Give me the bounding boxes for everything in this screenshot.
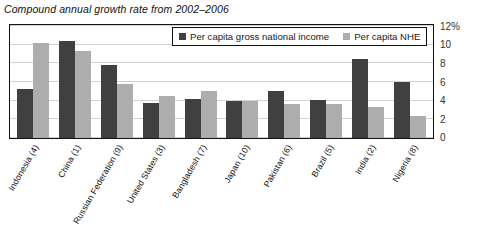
bar <box>185 99 201 138</box>
x-axis-tick-label: Pakistan (6) <box>261 143 293 189</box>
legend-item-nhe: Per capita NHE <box>343 31 420 42</box>
y-axis-tick-label: 4 <box>440 95 446 106</box>
y-axis-tick-label: 8 <box>440 57 446 68</box>
y-axis-tick-label: 6 <box>440 76 446 87</box>
x-axis-tick-label: Indonesia (4) <box>6 143 40 193</box>
bar <box>410 116 426 138</box>
x-axis-tick-label: Nigeria (8) <box>390 143 419 184</box>
bar-group <box>96 25 138 138</box>
y-axis: 12%1086420 <box>440 24 490 139</box>
bar <box>75 51 91 138</box>
x-axis-label-cell: Pakistan (6) <box>264 141 306 236</box>
x-axis-label-cell: Japan (10) <box>221 141 263 236</box>
x-axis-label-cell: India (2) <box>348 141 390 236</box>
bar <box>201 91 217 138</box>
bar <box>117 84 133 138</box>
bar-group <box>12 25 54 138</box>
y-axis-tick-label: 2 <box>440 113 446 124</box>
bar-group <box>54 25 96 138</box>
legend-label-nhe: Per capita NHE <box>354 31 420 42</box>
legend-item-gni: Per capita gross national income <box>179 31 329 42</box>
bar <box>143 103 159 138</box>
chart-legend: Per capita gross national income Per cap… <box>172 27 427 46</box>
x-axis-label-cell: Bangladesh (7) <box>179 141 221 236</box>
x-axis-tick-label: Japan (10) <box>221 143 251 184</box>
x-axis-tick-label: China (1) <box>56 143 83 179</box>
bar <box>368 107 384 138</box>
bar <box>101 65 117 138</box>
legend-label-gni: Per capita gross national income <box>190 31 329 42</box>
x-axis-labels: Indonesia (4)China (1)Russian Federation… <box>9 141 434 236</box>
x-axis-label-cell: Brazil (5) <box>306 141 348 236</box>
bar <box>59 41 75 138</box>
bar <box>310 100 326 138</box>
bar <box>159 96 175 138</box>
bar <box>33 43 49 138</box>
chart-title: Compound annual growth rate from 2002–20… <box>4 3 229 15</box>
bar <box>17 89 33 138</box>
legend-swatch-icon <box>343 33 350 40</box>
bar <box>394 82 410 138</box>
bar <box>284 104 300 138</box>
bar <box>268 91 284 138</box>
x-axis-tick-label: Brazil (5) <box>309 143 335 179</box>
y-axis-tick-label: 10 <box>440 39 451 50</box>
x-axis-tick-label: India (2) <box>353 143 378 176</box>
y-axis-tick-label: 12% <box>440 20 460 31</box>
bar <box>352 59 368 138</box>
x-axis-label-cell: Nigeria (8) <box>390 141 432 236</box>
chart-container: Compound annual growth rate from 2002–20… <box>0 0 493 240</box>
bar <box>326 104 342 138</box>
legend-swatch-icon <box>179 33 186 40</box>
bar <box>226 101 242 138</box>
y-axis-tick-label: 0 <box>440 132 446 143</box>
x-axis-label-cell: Indonesia (4) <box>11 141 53 236</box>
bar <box>242 101 258 138</box>
